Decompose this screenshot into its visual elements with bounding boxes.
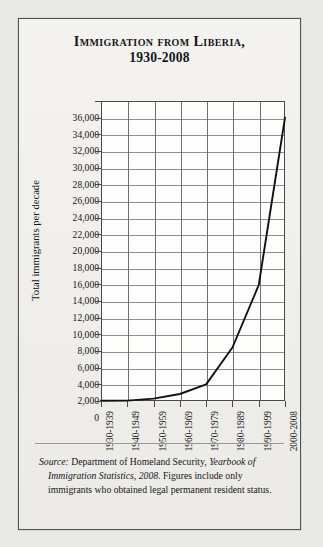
x-axis-tick-mark xyxy=(232,401,233,407)
y-axis-tick-mark xyxy=(95,168,101,169)
y-axis-tick-mark xyxy=(95,384,101,385)
y-axis-tick-label: 2,000 xyxy=(41,395,99,406)
figure-background: Immigration from Liberia, 1930-2008 Tota… xyxy=(19,19,300,529)
x-axis-tick-mark xyxy=(154,401,155,407)
y-axis-tick-label: 4,000 xyxy=(41,378,99,389)
y-axis-tick-label: 34,000 xyxy=(41,128,99,139)
y-axis-tick-mark xyxy=(95,301,101,302)
y-axis-tick-mark xyxy=(95,351,101,352)
y-axis-tick-label: 24,000 xyxy=(41,212,99,223)
divider xyxy=(35,443,284,444)
y-axis-tick-label: 30,000 xyxy=(41,162,99,173)
y-axis-tick-labels: 02,0004,0006,0008,00010,00012,00014,0001… xyxy=(41,101,99,401)
y-axis-tick-mark xyxy=(95,101,101,102)
y-axis-tick-label: 28,000 xyxy=(41,178,99,189)
y-axis-tick-label: 10,000 xyxy=(41,328,99,339)
source-body-1: Department of Homeland Security, xyxy=(69,456,209,467)
y-axis-tick-label: 36,000 xyxy=(41,112,99,123)
y-axis-tick-mark xyxy=(95,268,101,269)
y-axis-tick-label: 32,000 xyxy=(41,145,99,156)
y-axis-tick-mark xyxy=(95,251,101,252)
y-axis-tick-mark xyxy=(95,184,101,185)
y-axis-tick-label: 0 xyxy=(41,412,99,423)
y-axis-tick-mark xyxy=(95,218,101,219)
y-axis-title: Total immigrants per decade xyxy=(30,141,41,341)
title-line-1: Immigration from Liberia, xyxy=(19,33,300,50)
x-axis-tick-mark xyxy=(127,401,128,407)
x-axis-tick-mark xyxy=(285,401,286,407)
chart-area: Total immigrants per decade 02,0004,0006… xyxy=(19,85,302,430)
data-series-line xyxy=(101,101,285,401)
y-axis-tick-mark xyxy=(95,118,101,119)
source-note: Source: Department of Homeland Security,… xyxy=(39,455,282,496)
x-axis-tick-label: 2000-2008 xyxy=(289,411,299,481)
x-axis-tick-mark xyxy=(180,401,181,407)
y-axis-tick-label: 14,000 xyxy=(41,295,99,306)
y-axis-tick-mark xyxy=(95,151,101,152)
y-axis-tick-label: 6,000 xyxy=(41,362,99,373)
figure-panel: Immigration from Liberia, 1930-2008 Tota… xyxy=(18,18,301,530)
y-axis-tick-label: 20,000 xyxy=(41,245,99,256)
y-axis-tick-label: 16,000 xyxy=(41,278,99,289)
y-axis-tick-mark xyxy=(95,201,101,202)
title-line-2: 1930-2008 xyxy=(19,50,300,66)
y-axis-tick-mark xyxy=(95,318,101,319)
y-axis-tick-label: 12,000 xyxy=(41,312,99,323)
page-title: Immigration from Liberia, 1930-2008 xyxy=(19,33,300,66)
source-label: Source: xyxy=(39,456,69,467)
y-axis-tick-mark xyxy=(95,234,101,235)
y-axis-tick-label: 18,000 xyxy=(41,262,99,273)
y-axis-tick-mark xyxy=(95,284,101,285)
y-axis-tick-mark xyxy=(95,368,101,369)
y-axis-tick-mark xyxy=(95,134,101,135)
x-axis-tick-mark xyxy=(259,401,260,407)
y-axis-tick-label: 22,000 xyxy=(41,228,99,239)
y-axis-tick-label: 26,000 xyxy=(41,195,99,206)
x-axis-tick-mark xyxy=(101,401,102,407)
x-axis-tick-mark xyxy=(206,401,207,407)
y-axis-tick-label: 8,000 xyxy=(41,345,99,356)
y-axis-tick-mark xyxy=(95,334,101,335)
